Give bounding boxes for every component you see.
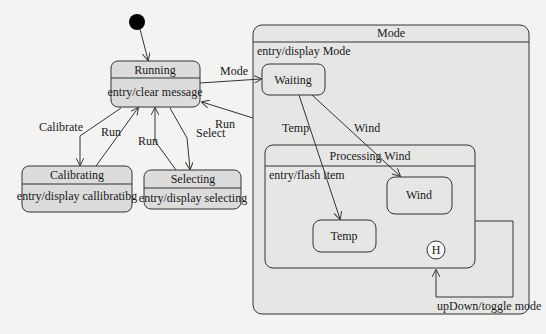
transition-wind-label: Wind <box>354 121 380 135</box>
transition-calibrate-label: Calibrate <box>39 120 83 134</box>
state-running[interactable]: Running entry/clear message <box>108 61 203 107</box>
state-calibrating[interactable]: Calibrating entry/display callibratibg <box>17 166 137 212</box>
state-running-action: entry/clear message <box>108 85 203 99</box>
state-mode-action: entry/display Mode <box>257 44 351 58</box>
state-selecting-name: Selecting <box>171 172 216 186</box>
transition-run-from-calibrating[interactable]: Run <box>96 108 138 166</box>
history-state[interactable]: H <box>427 241 445 259</box>
state-temp[interactable]: Temp <box>313 220 376 252</box>
state-temp-name: Temp <box>330 229 357 243</box>
transition-run-from-calibrating-label: Run <box>101 125 121 139</box>
state-calibrating-name: Calibrating <box>50 168 104 182</box>
state-diagram: Mode entry/display Mode Waiting Processi… <box>0 0 546 334</box>
state-selecting[interactable]: Selecting entry/display selecting <box>139 170 247 209</box>
state-wind[interactable]: Wind <box>387 177 452 214</box>
transition-temp-label: Temp <box>282 121 309 135</box>
state-wind-name: Wind <box>406 188 432 202</box>
transition-mode-label: Mode <box>220 64 248 78</box>
state-waiting[interactable]: Waiting <box>262 64 325 95</box>
state-processing-wind-name: Processing Wind <box>330 149 411 163</box>
transition-updown-label: upDown/toggle mode <box>437 299 541 313</box>
transition-mode[interactable]: Mode <box>200 64 261 83</box>
state-selecting-action: entry/display selecting <box>139 191 247 205</box>
transition-run-from-selecting-label: Run <box>138 134 158 148</box>
transition-initial-running <box>140 29 148 60</box>
initial-state <box>129 14 145 30</box>
state-waiting-name: Waiting <box>274 73 312 87</box>
state-calibrating-action: entry/display callibratibg <box>17 189 137 203</box>
state-mode-name: Mode <box>377 26 405 40</box>
state-running-name: Running <box>134 63 175 77</box>
transition-run-from-selecting[interactable]: Run <box>138 108 176 170</box>
history-state-label: H <box>432 243 441 257</box>
transition-select-label: Select <box>196 126 226 140</box>
state-processing-wind-action: entry/flash item <box>269 168 345 182</box>
